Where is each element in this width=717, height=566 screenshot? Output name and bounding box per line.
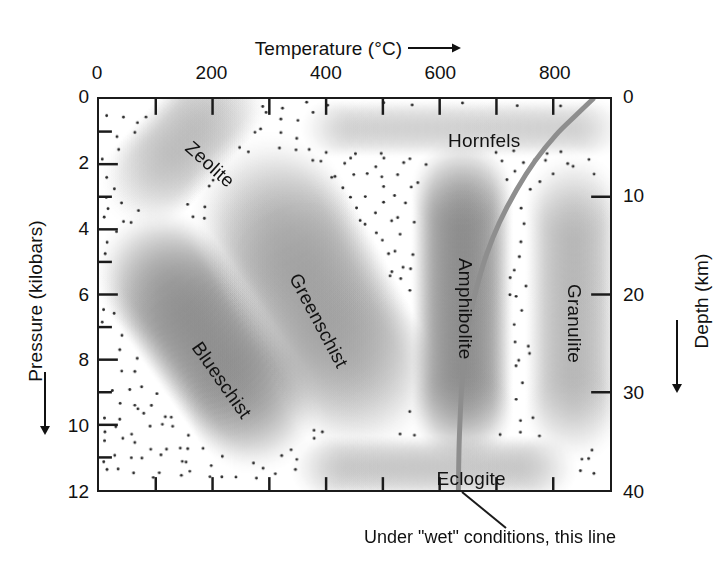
depth-down-arrow-icon (676, 320, 678, 386)
left-tick-label-4: 4 (49, 218, 89, 240)
right-tick-label-0: 0 (623, 86, 634, 108)
top-tick-label-0: 0 (92, 62, 103, 84)
plot-area: ZeoliteHornfelsBlueschistGreenschistAmph… (97, 97, 612, 492)
geotherm-line (458, 99, 593, 490)
right-tick-label-30: 30 (623, 382, 644, 404)
left-tick-label-10: 10 (49, 415, 89, 437)
left-tick-label-8: 8 (49, 349, 89, 371)
right-arrow-icon (408, 37, 462, 59)
left-tick-label-2: 2 (49, 152, 89, 174)
top-tick-label-200: 200 (196, 62, 228, 84)
caption-text: Under "wet" conditions, this line (364, 527, 616, 548)
top-axis-label-text: Temperature (°C) (255, 38, 403, 59)
left-tick-label-12: 12 (49, 481, 89, 503)
pressure-down-arrow-icon (44, 372, 46, 428)
right-axis-title: Depth (km) (691, 181, 713, 421)
metamorphic-facies-figure: Temperature (°C) Pressure (kilobars) Dep… (0, 0, 717, 566)
plot-overlay-svg (99, 99, 610, 490)
left-tick-label-6: 6 (49, 284, 89, 306)
axis-tick-marks (99, 99, 610, 490)
top-tick-label-400: 400 (310, 62, 342, 84)
top-tick-label-600: 600 (424, 62, 456, 84)
top-axis-title: Temperature (°C) (0, 38, 717, 61)
geotherm-curve (458, 99, 593, 490)
right-tick-label-20: 20 (623, 284, 644, 306)
right-tick-label-10: 10 (623, 185, 644, 207)
top-tick-label-800: 800 (539, 62, 571, 84)
right-tick-label-40: 40 (623, 481, 644, 503)
left-tick-label-0: 0 (49, 86, 89, 108)
